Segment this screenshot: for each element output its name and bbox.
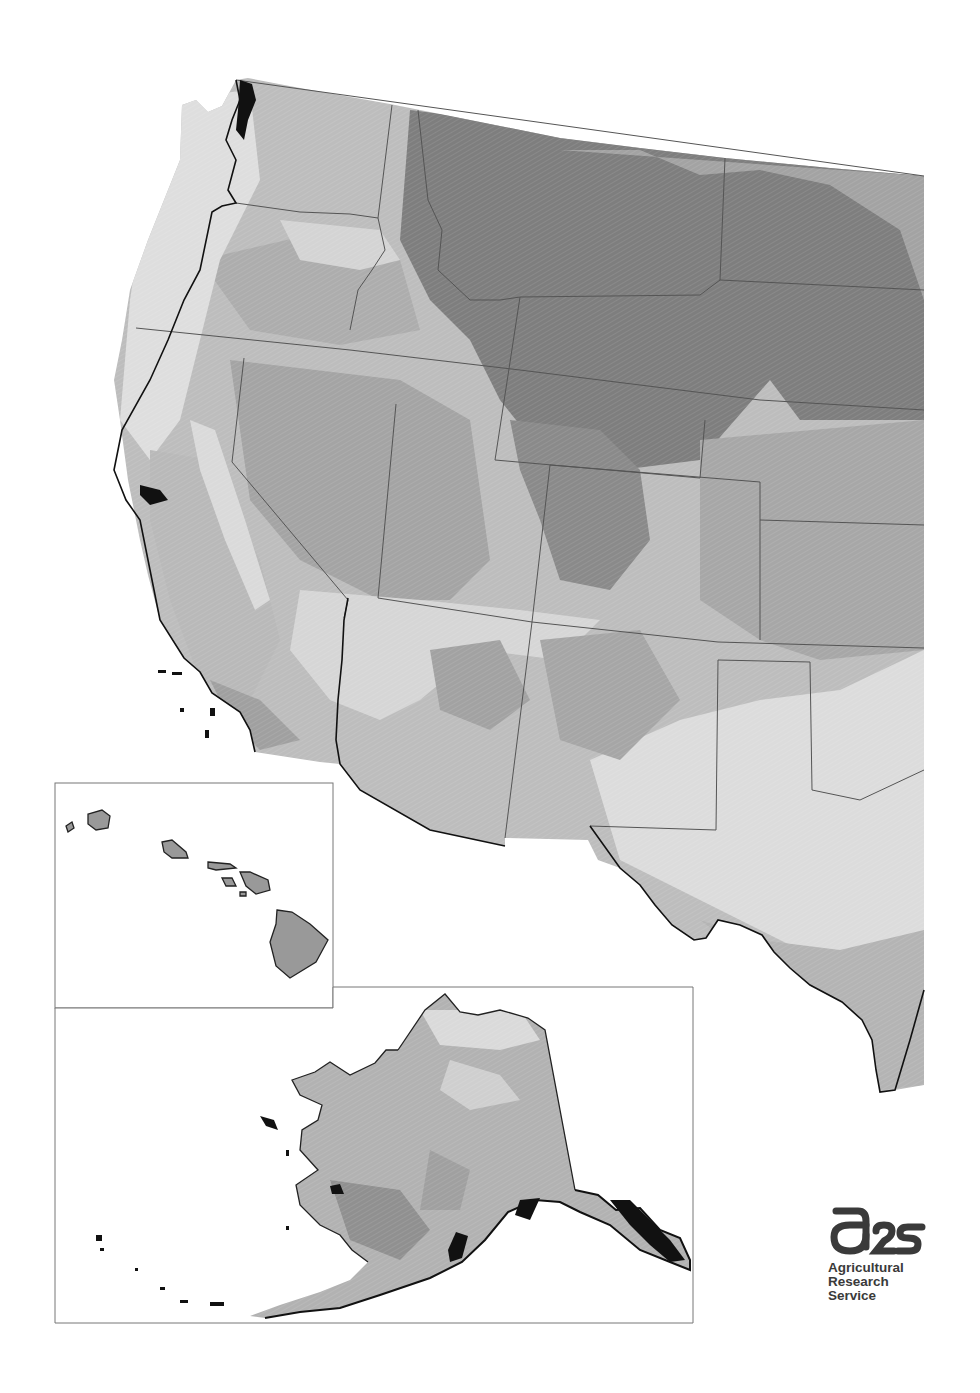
logo-line-1: Agricultural (828, 1261, 938, 1275)
logo-line-3: Service (828, 1289, 938, 1303)
ars-mark-icon (828, 1205, 928, 1257)
hawaii-inset (55, 783, 333, 1008)
ars-logo: Agricultural Research Service (828, 1205, 938, 1303)
zone-map (0, 0, 980, 1393)
logo-line-2: Research (828, 1275, 938, 1289)
alaska-inset (55, 980, 700, 1323)
